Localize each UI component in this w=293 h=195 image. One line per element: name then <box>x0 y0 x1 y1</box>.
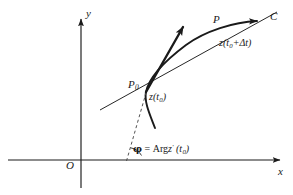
z-t0dt-base: z(t <box>219 37 229 48</box>
equals-sign: = <box>142 143 153 154</box>
point-P0-letter: P <box>128 78 135 90</box>
arg-close-paren: ) <box>186 143 189 154</box>
z-t0-plus-dt-label: z(t0+Δt) <box>219 38 251 49</box>
origin-label: O <box>66 160 74 171</box>
secant-line <box>100 12 277 110</box>
point-P0-subscript: 0 <box>135 83 139 92</box>
z-t0-base: z(t <box>149 91 159 102</box>
arg-operator: Arg <box>153 143 168 154</box>
arg-open-paren: (t <box>174 143 183 154</box>
tangent-vector-arrow <box>146 27 183 92</box>
point-P0-label: P0 <box>128 79 139 91</box>
angle-expression-label: φ = Argz′ (t0) <box>133 144 189 156</box>
z-t0dt-tail: +Δt) <box>233 37 252 48</box>
z-t0-label: z(t0) <box>149 92 166 103</box>
y-axis-label: y <box>86 8 91 19</box>
point-P-label: P <box>213 14 220 25</box>
figure-canvas: y x O P C P0 z(t0) z(t0+Δt) φ = Argz′ (t… <box>0 0 293 195</box>
x-axis-label: x <box>278 166 283 177</box>
phi-symbol: φ <box>133 143 142 154</box>
z-t0-tail: ) <box>163 91 166 102</box>
curve-C-label: C <box>270 11 277 22</box>
figure-drawing <box>0 0 293 195</box>
